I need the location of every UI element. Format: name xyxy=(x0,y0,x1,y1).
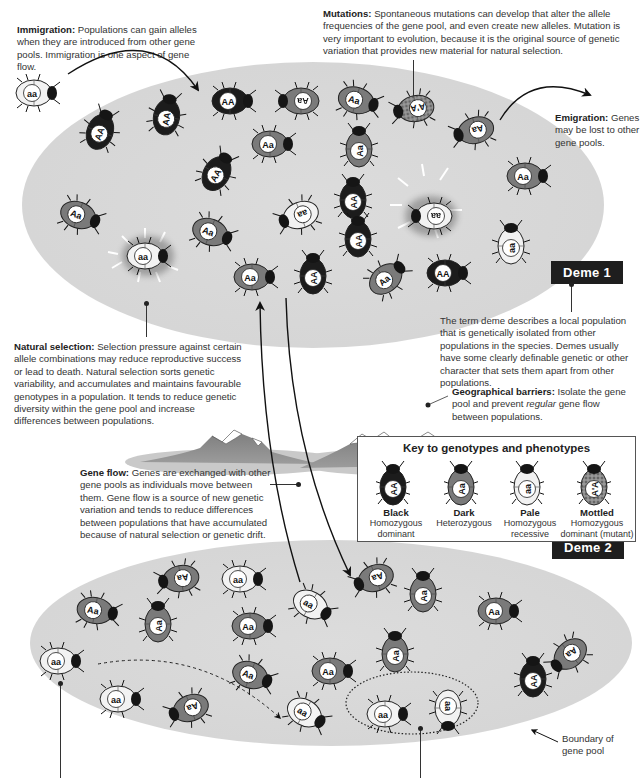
pale-beetle-aa-icon: aa xyxy=(14,76,60,110)
gene-flow-leader-dot xyxy=(296,482,301,487)
svg-text:aa: aa xyxy=(138,252,149,262)
svg-text:Aa: Aa xyxy=(154,619,164,631)
deme2-left-leader-dot xyxy=(58,681,63,686)
svg-text:Aa: Aa xyxy=(488,607,500,617)
dark-beetle-Aa-icon: Aa xyxy=(476,594,522,628)
key-item-dark: Aa Dark Heterozygous xyxy=(430,461,498,529)
svg-text:Aa: Aa xyxy=(322,667,334,677)
svg-text:Aa: Aa xyxy=(296,96,308,106)
black-beetle-AA-icon: AA xyxy=(516,653,550,699)
emigration-annotation: Emigration: Genes may be lost to other g… xyxy=(555,112,641,149)
black-beetle-AA-icon: AA xyxy=(425,256,471,290)
dark-beetle-Aa-icon: Aa xyxy=(406,568,440,614)
svg-text:Aa: Aa xyxy=(391,649,401,661)
svg-text:aa: aa xyxy=(507,242,517,253)
deme2-cluster-leader-line xyxy=(420,728,421,778)
pale-beetle-aa-icon: aa xyxy=(220,562,266,596)
black-beetle-AA-icon: AA xyxy=(341,213,375,259)
black-beetle-icon: AA xyxy=(376,461,416,507)
boundary-body: Boundary of gene pool xyxy=(562,733,614,756)
dark-beetle-Aa-icon: Aa xyxy=(232,260,278,294)
pale-beetle-icon: aa xyxy=(510,461,550,507)
geographical-barriers-italic: regular xyxy=(526,398,556,409)
svg-text:Aa: Aa xyxy=(244,273,256,283)
natural-selection-leader-line xyxy=(146,303,147,337)
svg-text:aa: aa xyxy=(523,483,533,494)
dark-beetle-Aa-icon: Aa xyxy=(141,598,175,644)
svg-text:aa: aa xyxy=(51,657,62,667)
key-item-desc: Heterozygous xyxy=(430,518,498,529)
svg-text:aa: aa xyxy=(233,575,244,585)
natural-selection-body: Selection pressure against certain allel… xyxy=(14,341,242,426)
key-item-desc: Homozygous dominant (mutant) xyxy=(560,518,634,539)
svg-text:aa: aa xyxy=(430,211,441,221)
svg-text:AA: AA xyxy=(222,97,235,107)
dark-beetle-Aa-icon: Aa xyxy=(310,654,356,688)
deme2-left-leader-line xyxy=(60,683,61,778)
pale-beetle-aa-icon: aa xyxy=(408,199,454,233)
deme1-leader-line xyxy=(571,284,572,312)
mottled-beetle-icon: A'A xyxy=(577,461,617,507)
svg-text:Aa: Aa xyxy=(355,144,365,156)
dark-beetle-Aa-icon: Aa xyxy=(378,628,412,674)
black-beetle-AA-icon: AA xyxy=(210,84,256,118)
dark-beetle-Aa-icon: Aa xyxy=(505,159,551,193)
dark-beetle-Aa-icon: Aa xyxy=(342,123,376,169)
deme2-cluster-leader-dot xyxy=(418,726,423,731)
gene-flow-annotation: Gene flow: Genes are exchanged with othe… xyxy=(80,467,275,541)
boundary-annotation: Boundary of gene pool xyxy=(562,733,622,758)
svg-text:Aa: Aa xyxy=(419,589,429,601)
key-item-name: Dark xyxy=(430,507,498,518)
deme-definition-annotation: The term deme describes a local populati… xyxy=(440,315,640,389)
svg-text:AA: AA xyxy=(389,482,399,495)
dark-beetle-Aa-icon: Aa xyxy=(275,84,321,118)
pale-beetle-aa-icon: aa xyxy=(431,688,465,734)
dark-beetle-icon: Aa xyxy=(444,461,484,507)
dark-beetle-Aa-icon: Aa xyxy=(250,127,296,161)
key-item-pale: aa Pale Homozygous recessive xyxy=(496,461,564,539)
deme1-leader-dot xyxy=(569,282,574,287)
svg-text:A'A: A'A xyxy=(590,481,600,497)
key-item-name: Mottled xyxy=(560,507,634,518)
key-item-mottled: A'A Mottled Homozygous dominant (mutant) xyxy=(560,461,634,539)
svg-text:Aa: Aa xyxy=(175,572,189,584)
svg-text:AA: AA xyxy=(349,195,359,208)
natural-selection-leader-dot xyxy=(144,301,149,306)
deme-definition-body: The term deme describes a local populati… xyxy=(440,315,628,388)
natural-selection-title: Natural selection: xyxy=(14,341,95,352)
geo-barrier-pointer xyxy=(430,396,448,404)
svg-text:aa: aa xyxy=(27,89,38,99)
dark-beetle-Aa-icon: Aa xyxy=(230,609,276,643)
pale-beetle-aa-icon: aa xyxy=(98,682,144,716)
deme1-label: Deme 1 xyxy=(551,261,623,284)
emigration-title: Emigration: xyxy=(555,112,608,123)
svg-text:aa: aa xyxy=(443,701,453,712)
mutations-annotation: Mutations: Spontaneous mutations can dev… xyxy=(323,8,628,58)
black-beetle-AA-icon: AA xyxy=(296,250,330,296)
svg-text:Aa: Aa xyxy=(242,622,254,632)
pale-beetle-aa-icon: aa xyxy=(365,697,411,731)
svg-text:AA: AA xyxy=(529,674,539,687)
immigration-annotation: Immigration: Populations can gain allele… xyxy=(17,24,207,74)
key-item-name: Black xyxy=(362,507,430,518)
svg-text:aa: aa xyxy=(111,695,122,705)
svg-text:AA: AA xyxy=(437,269,450,279)
key-item-desc: Homozygous dominant xyxy=(362,518,430,539)
svg-text:Aa: Aa xyxy=(517,172,529,182)
boundary-arrow xyxy=(532,730,558,742)
geographical-barriers-title: Geographical barriers: xyxy=(452,386,555,397)
mutations-title: Mutations: xyxy=(323,8,372,19)
pale-beetle-aa-icon: aa xyxy=(494,220,528,266)
key-item-black: AA Black Homozygous dominant xyxy=(362,461,430,539)
svg-text:aa: aa xyxy=(378,710,389,720)
pale-beetle-aa-icon: aa xyxy=(38,644,84,678)
svg-text:AA: AA xyxy=(309,271,319,284)
key-item-name: Pale xyxy=(496,507,564,518)
natural-selection-annotation: Natural selection: Selection pressure ag… xyxy=(14,341,242,428)
svg-text:Aa: Aa xyxy=(457,482,467,494)
geographical-barriers-annotation: Geographical barriers: Isolate the gene … xyxy=(452,386,634,423)
pale-beetle-aa-icon: aa xyxy=(125,239,171,273)
svg-text:AA: AA xyxy=(354,234,364,247)
genotype-key: Key to genotypes and phenotypes AA Black… xyxy=(357,436,636,542)
gene-flow-title: Gene flow: xyxy=(80,467,129,478)
